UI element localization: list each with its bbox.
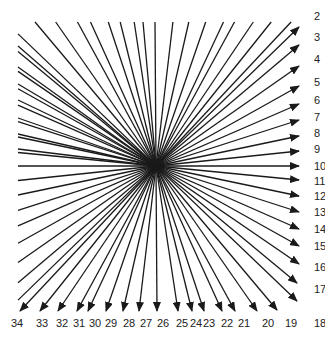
arrow-lines — [18, 22, 299, 311]
ray-line — [18, 46, 156, 166]
ray-line — [18, 100, 156, 166]
arrow-label-3: 3 — [314, 31, 320, 43]
arrow-label-6: 6 — [314, 94, 320, 106]
arrow-label-2: 2 — [314, 10, 320, 22]
arrow-label-12: 12 — [314, 190, 325, 202]
arrow-label-26: 26 — [157, 317, 169, 329]
arrow-label-34: 34 — [11, 317, 23, 329]
arrow-label-4: 4 — [314, 53, 320, 65]
arrow-label-27: 27 — [140, 317, 152, 329]
arrow-label-15: 15 — [314, 240, 325, 252]
arrow-label-13: 13 — [314, 206, 325, 218]
arrow-label-29: 29 — [105, 317, 117, 329]
arrow-label-8: 8 — [314, 127, 320, 139]
arrow-label-23: 23 — [203, 317, 215, 329]
arrow-label-20: 20 — [262, 317, 274, 329]
arrow-label-24: 24 — [190, 317, 202, 329]
arrow-label-32: 32 — [56, 317, 68, 329]
arrow-label-28: 28 — [123, 317, 135, 329]
arrow-label-33: 33 — [36, 317, 48, 329]
arrow-label-22: 22 — [221, 317, 233, 329]
arrow-label-31: 31 — [73, 317, 85, 329]
arrow-label-19: 19 — [285, 317, 297, 329]
arrow-label-7: 7 — [314, 111, 320, 123]
arrow-label-30: 30 — [89, 317, 101, 329]
arrow-label-16: 16 — [314, 261, 325, 273]
arrow-label-17: 17 — [314, 283, 325, 295]
radial-arrow-diagram: 2345678910111213141516171819202122232425… — [0, 0, 325, 339]
ray-line — [18, 134, 156, 166]
arrow-label-25: 25 — [176, 317, 188, 329]
arrow-label-11: 11 — [314, 175, 325, 187]
arrow-label-18: 18 — [314, 317, 325, 329]
arrow-label-14: 14 — [314, 223, 325, 235]
arrow-label-21: 21 — [238, 317, 250, 329]
arrow-label-5: 5 — [314, 76, 320, 88]
arrow-label-9: 9 — [314, 143, 320, 155]
arrow-label-10: 10 — [314, 160, 325, 172]
